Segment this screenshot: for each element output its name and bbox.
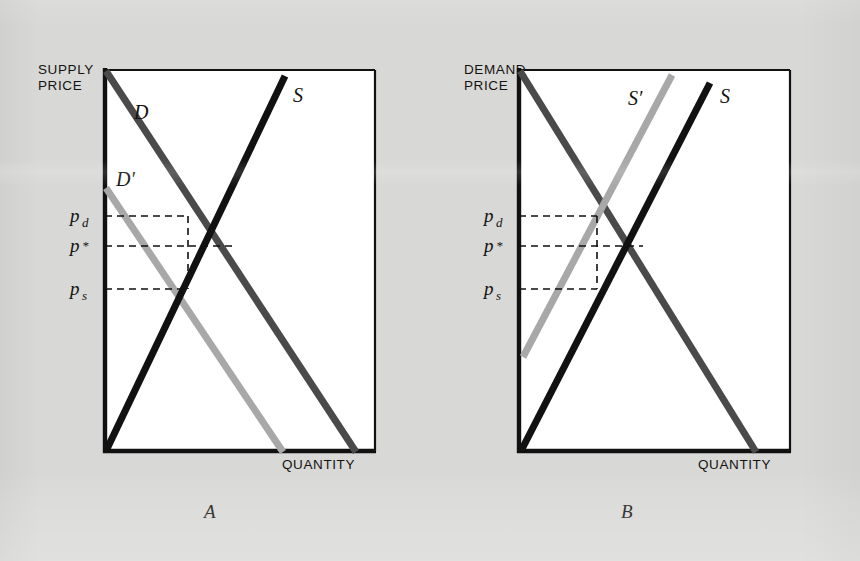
panel-a: SUPPLY PRICE D D′ S p (0, 0, 430, 561)
panel-a-label-supply: S (293, 84, 303, 106)
panel-b-plot: S′ S p d p * p s (430, 0, 860, 470)
panel-a-price-label-ps-subscript: s (82, 288, 87, 303)
panel-a-letter: A (204, 501, 216, 523)
panel-b-price-label-pd-subscript: d (496, 215, 503, 230)
panel-b-price-label-ps-subscript: s (496, 288, 501, 303)
panel-b-label-supply: S (720, 85, 730, 107)
panel-a-label-demand-shifted: D′ (115, 168, 135, 190)
panel-b-letter: B (621, 501, 633, 523)
panel-b-label-supply-shifted: S′ (628, 87, 643, 109)
panel-b: DEMAND PRICE S′ S p d p (430, 0, 860, 561)
panel-a-plot: D D′ S p d p * p s (0, 0, 430, 470)
panel-a-price-label-pd-subscript: d (82, 215, 89, 230)
panel-b-price-label-pstar-asterisk: * (496, 238, 503, 253)
panel-b-price-label-pd: p (482, 205, 494, 226)
figure-root: SUPPLY PRICE D D′ S p (0, 0, 860, 561)
panel-b-x-axis-caption: QUANTITY (698, 457, 771, 472)
panel-b-price-label-pstar: p (482, 235, 494, 256)
panel-a-price-label-pstar-asterisk: * (82, 238, 89, 253)
panel-a-price-label-pstar: p (68, 235, 80, 256)
panel-a-label-demand: D (133, 101, 149, 123)
panel-b-price-label-ps: p (482, 278, 494, 299)
panel-a-price-label-ps: p (68, 278, 80, 299)
panel-a-x-axis-caption: QUANTITY (282, 457, 355, 472)
panel-a-price-label-pd: p (68, 205, 80, 226)
